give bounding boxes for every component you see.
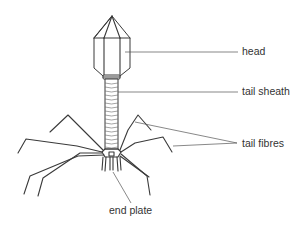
tail-fibres-left: [18, 115, 104, 196]
tail-fibres-label: tail fibres: [242, 138, 284, 149]
head-label: head: [242, 46, 265, 57]
end-plate-leader: [113, 172, 131, 203]
tail-sheath-shape: [105, 79, 118, 149]
collar-shape: [103, 75, 120, 79]
end-plate-shape: [102, 149, 121, 171]
tail-fibres-right: [120, 115, 172, 195]
head-shape: [94, 16, 130, 76]
phage-drawing: [0, 0, 308, 227]
tail-sheath-label: tail sheath: [242, 86, 290, 97]
tail-fibres-leader-2: [173, 143, 237, 146]
end-plate-label: end plate: [109, 205, 152, 216]
